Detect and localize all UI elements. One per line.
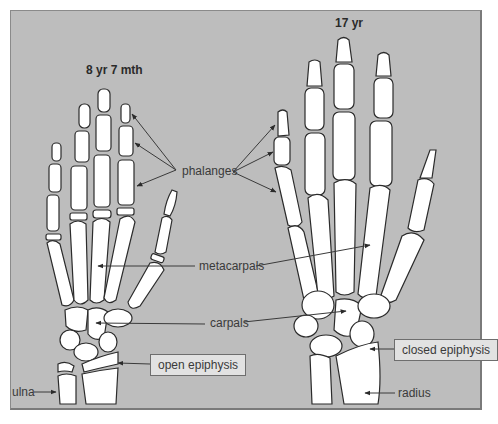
closed-epiphysis-callout: closed epiphysis bbox=[394, 339, 498, 361]
adult-age-title: 17 yr bbox=[335, 16, 363, 30]
open-epiphysis-callout: open epiphysis bbox=[150, 354, 246, 376]
phalanges-label: phalanges bbox=[182, 164, 237, 178]
radius-label: radius bbox=[398, 386, 431, 400]
ulna-label: ulna bbox=[12, 385, 35, 399]
carpals-label: carpals bbox=[210, 316, 249, 330]
metacarpals-label: metacarpals bbox=[199, 259, 264, 273]
child-age-title: 8 yr 7 mth bbox=[86, 63, 143, 77]
